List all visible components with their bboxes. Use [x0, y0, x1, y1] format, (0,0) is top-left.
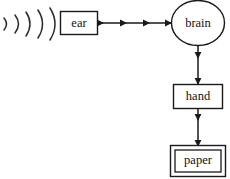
- sound-wave-arc-4: [38, 10, 43, 38]
- edge-ear-to-brain-arrowhead-1: [97, 20, 104, 27]
- sound-wave-arc-5: [50, 8, 55, 40]
- sound-wave-arc-3: [26, 12, 30, 36]
- node-ear-label: ear: [71, 16, 87, 30]
- sound-wave-arc-1: [4, 18, 7, 30]
- node-paper-label: paper: [184, 153, 213, 167]
- edge-ear-to-brain: [97, 20, 172, 27]
- sound-waves-icon: [4, 8, 55, 40]
- edge-ear-to-brain-arrowhead-3: [143, 20, 150, 27]
- node-hand-label: hand: [186, 89, 211, 103]
- diagram-svg: ear brain hand: [0, 0, 230, 179]
- edge-hand-to-paper: [195, 108, 202, 147]
- edge-brain-to-hand-arrowhead-1: [195, 52, 202, 59]
- edge-brain-to-hand: [195, 45, 202, 85]
- sound-wave-arc-2: [15, 15, 19, 33]
- edge-ear-to-brain-arrowhead-2: [120, 20, 127, 27]
- node-brain[interactable]: brain: [172, 1, 225, 46]
- node-hand[interactable]: hand: [174, 85, 223, 109]
- edge-hand-to-paper-arrowhead-1: [195, 114, 202, 121]
- node-paper[interactable]: paper: [171, 146, 226, 177]
- node-brain-label: brain: [185, 16, 211, 30]
- node-ear[interactable]: ear: [61, 12, 98, 35]
- diagram-canvas: ear brain hand: [0, 0, 230, 179]
